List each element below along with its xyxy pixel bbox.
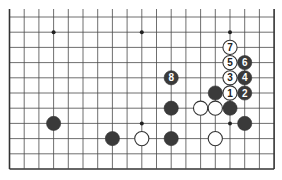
white-stone <box>208 101 222 115</box>
black-stone-icon <box>47 116 61 130</box>
black-stone <box>105 132 119 146</box>
black-stone <box>238 116 252 130</box>
black-stone <box>164 132 178 146</box>
white-stone-icon <box>208 132 222 146</box>
white-stone <box>208 132 222 146</box>
black-stone-move-8: 8 <box>164 71 178 85</box>
move-number-label: 3 <box>227 72 233 83</box>
white-stone-icon <box>135 132 149 146</box>
star-point-icon <box>228 121 232 125</box>
black-stone-move-6: 6 <box>238 56 252 70</box>
move-number-label: 6 <box>242 57 248 68</box>
black-stone-icon <box>223 101 237 115</box>
black-stone-icon <box>208 86 222 100</box>
star-point-icon <box>140 30 144 34</box>
move-number-label: 2 <box>242 88 248 99</box>
white-stone-icon <box>194 101 208 115</box>
star-point-icon <box>140 121 144 125</box>
star-point-icon <box>228 30 232 34</box>
black-stone <box>223 101 237 115</box>
move-number-label: 1 <box>227 88 233 99</box>
black-stone <box>164 101 178 115</box>
black-stone-move-2: 2 <box>238 86 252 100</box>
star-point-icon <box>52 30 56 34</box>
black-stone-icon <box>164 132 178 146</box>
black-stone <box>208 86 222 100</box>
black-stone-icon <box>164 101 178 115</box>
move-number-label: 7 <box>227 42 233 53</box>
move-number-label: 4 <box>242 72 248 83</box>
white-stone <box>135 132 149 146</box>
black-stone <box>47 116 61 130</box>
white-stone-move-1: 1 <box>223 86 237 100</box>
white-stone-move-3: 3 <box>223 71 237 85</box>
go-board-diagram: 12345678 <box>0 0 282 180</box>
white-stone-move-7: 7 <box>223 40 237 54</box>
white-stone-icon <box>208 101 222 115</box>
white-stone-move-5: 5 <box>223 56 237 70</box>
black-stone-icon <box>238 116 252 130</box>
white-stone <box>194 101 208 115</box>
move-number-label: 5 <box>227 57 233 68</box>
black-stone-icon <box>105 132 119 146</box>
move-number-label: 8 <box>168 72 174 83</box>
black-stone-move-4: 4 <box>238 71 252 85</box>
